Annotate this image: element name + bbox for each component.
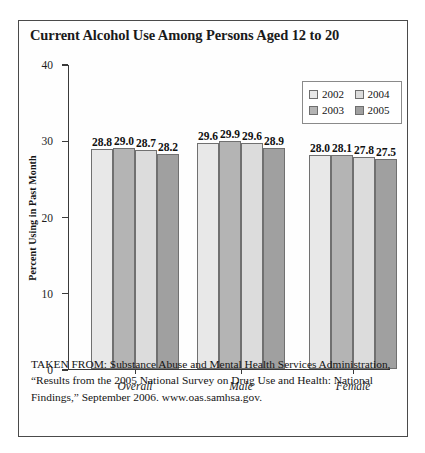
legend-swatch-icon [355,90,364,99]
bar-overall-2003: 29.0 [113,148,135,369]
legend-swatch-icon [309,90,318,99]
bar-female-2003: 28.1 [331,155,353,369]
bar-female-2004: 27.8 [353,157,375,369]
legend-label: 2005 [368,104,390,116]
y-axis-tick-label: 40 [42,59,54,71]
bar-male-2002: 29.6 [197,143,219,369]
y-axis-title: Percent Using in Past Month [27,155,38,280]
legend-entry-2005: 2005 [355,104,396,116]
bar-value-label: 28.8 [92,136,112,148]
bar-male-2003: 29.9 [219,141,241,369]
bar-value-label: 28.1 [332,142,352,154]
y-axis-tick: 30 [62,141,68,142]
legend: 2002200420032005 [302,81,402,124]
y-axis-tick-label: 30 [42,135,54,147]
bar-value-label: 29.0 [114,135,134,147]
y-axis-tick-label: 10 [42,288,54,300]
bar-value-label: 28.2 [158,141,178,153]
bar-female-2002: 28.0 [309,155,331,369]
bar-overall-2002: 28.8 [91,149,113,369]
bar-group-overall: 28.829.028.728.2Overall [91,64,179,369]
bar-value-label: 29.9 [220,128,240,140]
figure-frame: Current Alcohol Use Among Persons Aged 1… [18,20,408,437]
y-axis-tick: 20 [62,217,68,218]
page-title: Current Alcohol Use Among Persons Aged 1… [30,27,339,44]
bar-value-label: 27.5 [376,146,396,158]
y-axis-tick-label: 20 [42,212,54,224]
y-axis-tick: 10 [62,293,68,294]
y-axis-tick: 40 [62,64,68,65]
legend-label: 2003 [322,104,344,116]
bar-value-label: 27.8 [354,144,374,156]
bar-value-label: 28.7 [136,137,156,149]
bar-group-male: 29.629.929.628.9Male [197,64,285,369]
bar-value-label: 29.6 [198,130,218,142]
legend-swatch-icon [309,106,318,115]
legend-entry-2004: 2004 [355,88,396,100]
bar-overall-2004: 28.7 [135,150,157,369]
bar-female-2005: 27.5 [375,159,397,369]
bar-male-2004: 29.6 [241,143,263,369]
legend-label: 2004 [368,88,390,100]
bar-value-label: 29.6 [242,130,262,142]
legend-swatch-icon [355,106,364,115]
legend-entry-2003: 2003 [309,104,350,116]
legend-entry-2002: 2002 [309,88,350,100]
legend-label: 2002 [322,88,344,100]
bar-male-2005: 28.9 [263,148,285,368]
bar-value-label: 28.0 [310,142,330,154]
bar-value-label: 28.9 [264,135,284,147]
source-note: TAKEN FROM: Substance Abuse and Mental H… [31,356,397,405]
bar-overall-2005: 28.2 [157,154,179,369]
y-axis-line [68,65,69,370]
